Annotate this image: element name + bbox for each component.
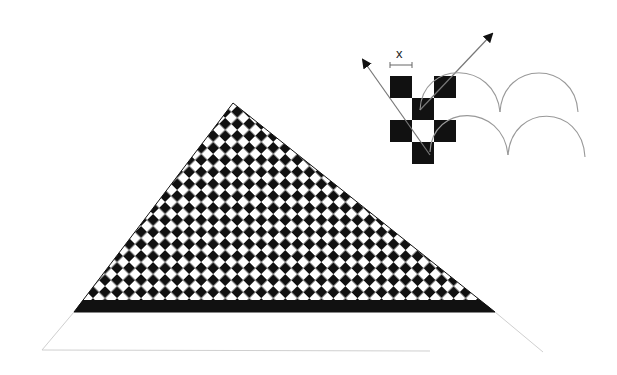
checker-tile-motif	[390, 76, 456, 164]
dimension-label-x: x	[396, 46, 403, 61]
direction-arrows	[363, 34, 492, 155]
arc-lower-2	[508, 116, 585, 157]
dimension-marker	[390, 62, 412, 68]
triangle-base-band	[74, 300, 495, 312]
ground-outline	[42, 312, 543, 352]
arc-upper-2	[500, 73, 578, 112]
diagram-canvas	[0, 0, 617, 375]
checker-triangle	[74, 103, 495, 312]
right-arrow	[420, 34, 492, 110]
